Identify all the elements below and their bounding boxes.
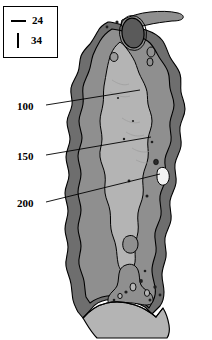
sub-chamber-a [147,47,155,57]
pore-3 [118,293,122,298]
vertical-line-icon [17,33,19,48]
depth-label-150: 150 [17,151,34,162]
lower-canal-node [123,235,138,253]
pore-2 [144,290,149,297]
scale-legend: 24 34 [3,6,58,58]
lacuna-satellite [154,159,159,165]
legend-item-0-label: 24 [32,15,43,26]
legend-item-1-label: 34 [31,35,42,46]
horizontal-line-icon [11,20,26,22]
sub-chamber-c [110,53,118,62]
lateral-lacuna [157,167,169,185]
pore-1 [130,283,136,291]
legend-item-0: 24 [11,15,43,26]
legend-item-1: 34 [11,33,42,48]
depth-label-200: 200 [17,198,34,209]
depth-label-100: 100 [17,101,34,112]
sub-chamber-b [147,58,153,66]
